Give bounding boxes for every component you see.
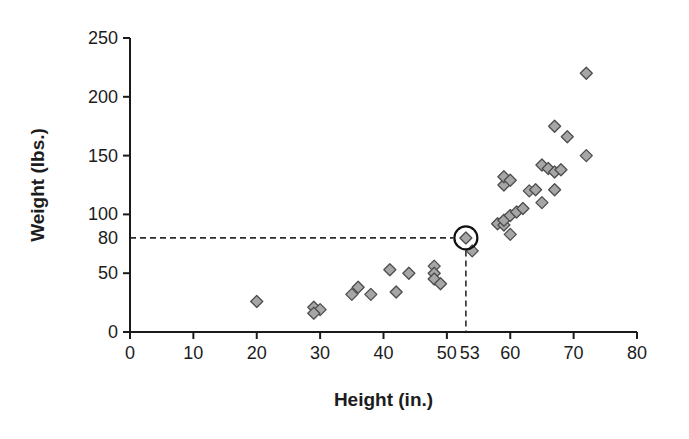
x-tick-label-highlight: 53 bbox=[460, 343, 480, 363]
data-point bbox=[580, 67, 592, 79]
y-tick-label-highlight: 80 bbox=[98, 228, 118, 248]
y-tick-label: 100 bbox=[88, 204, 118, 224]
data-point bbox=[536, 197, 548, 209]
x-tick-label: 20 bbox=[247, 343, 267, 363]
y-tick-label: 150 bbox=[88, 146, 118, 166]
height-weight-scatter-chart: 010203040506070800501001502002505380Heig… bbox=[0, 0, 689, 439]
data-point bbox=[251, 295, 263, 307]
highlighted-data-point bbox=[460, 232, 472, 244]
y-tick-label: 50 bbox=[98, 263, 118, 283]
data-point bbox=[561, 131, 573, 143]
data-point bbox=[390, 286, 402, 298]
data-point bbox=[504, 228, 516, 240]
y-axis-title: Weight (lbs.) bbox=[27, 128, 48, 242]
data-point bbox=[365, 288, 377, 300]
x-tick-label: 40 bbox=[373, 343, 393, 363]
data-point bbox=[549, 120, 561, 132]
x-tick-label: 50 bbox=[437, 343, 457, 363]
y-tick-label: 250 bbox=[88, 28, 118, 48]
data-point bbox=[580, 150, 592, 162]
x-axis-title: Height (in.) bbox=[334, 389, 433, 410]
x-tick-label: 70 bbox=[564, 343, 584, 363]
y-tick-label: 200 bbox=[88, 87, 118, 107]
y-tick-label: 0 bbox=[108, 322, 118, 342]
data-point bbox=[549, 184, 561, 196]
scatter-plot-figure: 010203040506070800501001502002505380Heig… bbox=[0, 0, 689, 439]
x-tick-label: 10 bbox=[183, 343, 203, 363]
data-point bbox=[384, 264, 396, 276]
x-tick-label: 30 bbox=[310, 343, 330, 363]
x-tick-label: 80 bbox=[627, 343, 647, 363]
data-point bbox=[403, 267, 415, 279]
x-tick-label: 60 bbox=[500, 343, 520, 363]
x-tick-label: 0 bbox=[125, 343, 135, 363]
scatter-plot-page: 010203040506070800501001502002505380Heig… bbox=[0, 0, 689, 439]
